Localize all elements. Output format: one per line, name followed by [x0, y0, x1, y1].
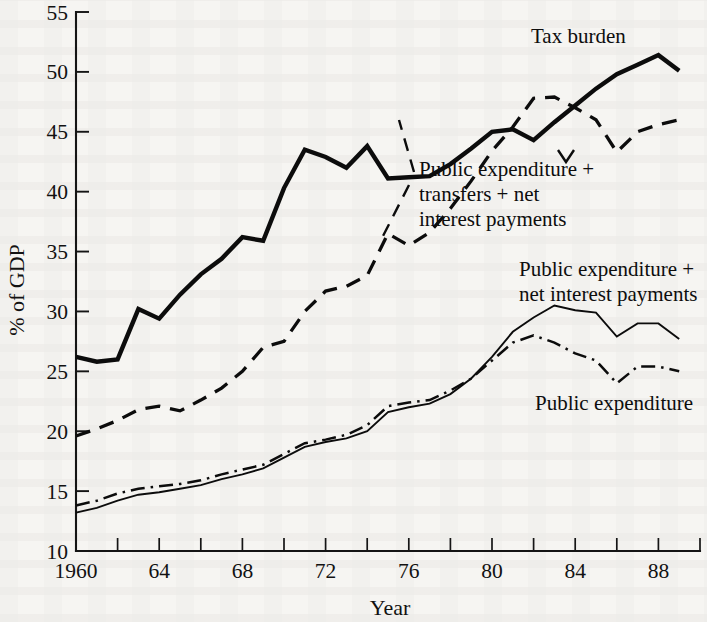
x-axis-ticks [76, 538, 700, 551]
annotation-public-expenditure: Public expenditure [535, 391, 693, 415]
y-tick-label: 30 [47, 300, 69, 324]
x-axis-title: Year [370, 595, 411, 620]
annotation-public-expenditure-transfers-net-interest: Public expenditure +transfers + netinter… [419, 157, 594, 231]
y-axis-ticks [76, 12, 89, 551]
x-tick-label: 84 [564, 559, 586, 583]
x-tick-label: 72 [315, 559, 337, 583]
y-tick-label: 20 [47, 420, 69, 444]
leader-line [382, 185, 409, 238]
x-tick-label: 88 [648, 559, 670, 583]
series-line [76, 55, 679, 362]
x-tick-label: 64 [148, 559, 170, 583]
y-tick-label: 15 [47, 480, 69, 504]
x-tick-label: 80 [481, 559, 503, 583]
x-tick-label: 76 [398, 559, 420, 583]
annotation-line: Public expenditure [535, 391, 693, 415]
chart-svg: 10152025303540455055 196064687276808488 … [0, 0, 707, 622]
y-axis-tick-labels: 10152025303540455055 [47, 1, 69, 564]
x-axis-tick-labels: 196064687276808488 [55, 559, 670, 583]
x-tick-label: 1960 [55, 559, 98, 583]
annotation-line: Tax burden [531, 24, 626, 48]
x-tick-label: 68 [232, 559, 254, 583]
y-tick-label: 40 [47, 180, 69, 204]
annotation-line: Public expenditure + [519, 257, 694, 281]
y-axis-title: % of GDP [4, 244, 29, 336]
y-tick-label: 25 [47, 360, 69, 384]
y-tick-label: 35 [47, 240, 69, 264]
annotation-public-expenditure-net-interest: Public expenditure +net interest payment… [519, 257, 697, 306]
annotation-line: interest payments [419, 207, 567, 231]
annotation-tax-burden: Tax burden [531, 24, 626, 48]
y-tick-label: 50 [47, 60, 69, 84]
chart-annotations: Tax burdenPublic expenditure +transfers … [419, 24, 697, 415]
chart-figure: 10152025303540455055 196064687276808488 … [0, 0, 707, 622]
annotation-line: net interest payments [519, 282, 697, 306]
annotation-line: transfers + net [419, 182, 539, 206]
y-tick-label: 55 [47, 1, 69, 25]
leader-line [399, 120, 414, 172]
y-tick-label: 45 [47, 120, 69, 144]
